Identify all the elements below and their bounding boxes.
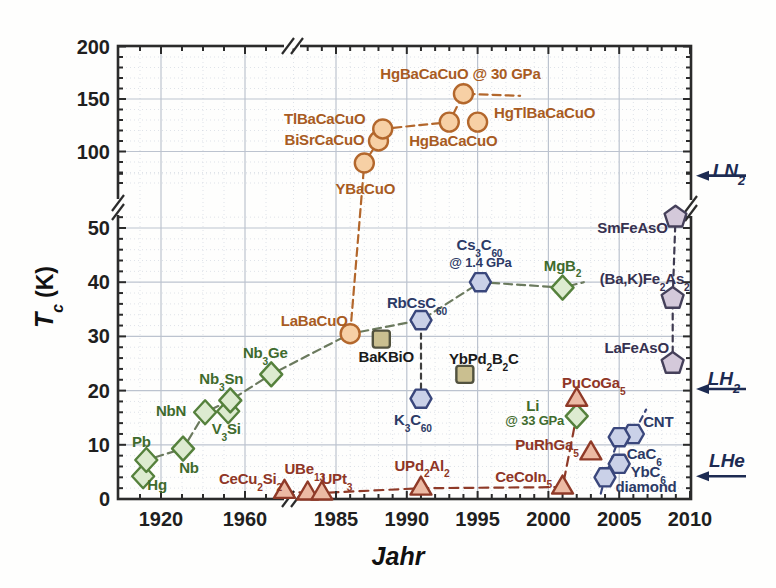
marker-LaFeAsO <box>662 352 684 373</box>
chart-canvas <box>0 0 776 588</box>
marker-YBaCuO <box>355 154 374 173</box>
marker-BaKBiO <box>373 331 390 348</box>
marker-TlBaCaCuO <box>373 119 392 138</box>
marker-Nb <box>172 437 194 461</box>
marker-BaKFe2As2 <box>662 287 684 308</box>
x-axis-title: Jahr <box>372 542 425 571</box>
marker-CeCoIn5 <box>552 476 573 494</box>
marker-HgBaCaCuO <box>440 113 459 132</box>
marker-HgBaCaCuO-30GPa <box>454 84 473 103</box>
marker-CeCu2Si2 <box>274 480 295 498</box>
cryogen-arrowhead-lh2 <box>696 384 709 394</box>
marker-CaC6 <box>609 428 630 446</box>
marker-YbPd2B2C <box>456 366 473 383</box>
y-axis-title: Tc(K) <box>30 266 59 328</box>
marker-HgTlBaCaCuO <box>468 113 487 132</box>
cryogen-arrowhead-ln2 <box>696 171 709 181</box>
axis-frame <box>118 46 691 499</box>
marker-MgB2 <box>552 276 574 300</box>
marker-K3C60 <box>411 390 432 408</box>
y-axis-subscript: c <box>48 304 65 313</box>
marker-UPd2Al2 <box>410 477 431 495</box>
marker-PuRhGa5 <box>580 441 601 459</box>
marker-NbN <box>194 400 216 424</box>
figure-tc-vs-year: HgPbNbNbNV3SiNb3SnNb3GeMgB2Li@ 33 GPaLaB… <box>0 0 776 588</box>
marker-LaBaCuO <box>341 324 360 343</box>
cryogen-arrowhead-lhe <box>696 471 709 481</box>
y-axis-symbol: T <box>30 313 58 328</box>
trend-heavy-fermion-trend <box>285 393 582 493</box>
marker-RbCsC60 <box>411 311 432 329</box>
marker-diamond <box>595 468 616 486</box>
marker-UPt3 <box>311 481 332 499</box>
marker-SmFeAsO <box>665 206 687 227</box>
y-axis-unit: (K) <box>32 266 58 298</box>
trend-conventional-trend <box>143 282 584 476</box>
marker-Li-33GPa <box>566 404 588 428</box>
marker-Nb3Ge <box>260 362 282 386</box>
marker-Cs3C60-1.4GPa <box>470 273 491 291</box>
